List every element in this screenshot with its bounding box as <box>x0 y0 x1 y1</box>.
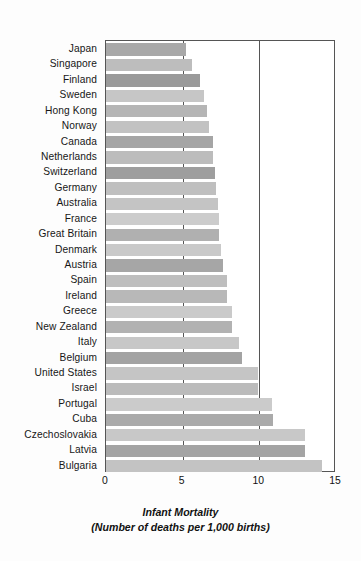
bar <box>106 182 216 194</box>
category-label: Bulgaria <box>59 457 97 474</box>
bar <box>106 229 219 241</box>
category-label-column: JapanSingaporeFinlandSwedenHong KongNorw… <box>0 40 101 472</box>
bar <box>106 460 322 472</box>
bar <box>106 59 192 71</box>
bar <box>106 105 207 117</box>
x-tick-label: 10 <box>253 475 265 486</box>
bar <box>106 337 239 349</box>
axis-caption: Infant Mortality (Number of deaths per 1… <box>0 505 361 534</box>
bar <box>106 259 223 271</box>
bar <box>106 429 305 441</box>
x-tick-label: 5 <box>179 475 185 486</box>
bar <box>106 244 221 256</box>
bar <box>106 445 305 457</box>
bar <box>106 352 242 364</box>
infant-mortality-bar-chart: JapanSingaporeFinlandSwedenHong KongNorw… <box>0 0 361 561</box>
axis-caption-title: Infant Mortality <box>0 505 361 520</box>
bar <box>106 383 258 395</box>
plot-area <box>105 40 335 472</box>
x-tick-label: 0 <box>102 475 108 486</box>
bar <box>106 43 186 55</box>
bar <box>106 74 200 86</box>
bar <box>106 151 213 163</box>
bar <box>106 167 215 179</box>
bar <box>106 90 204 102</box>
bar <box>106 290 227 302</box>
x-tick-label: 15 <box>329 475 341 486</box>
bar <box>106 121 209 133</box>
bar <box>106 198 218 210</box>
x-axis-ticks: 051015 <box>105 472 335 494</box>
bar <box>106 136 213 148</box>
bar <box>106 398 272 410</box>
bar <box>106 213 219 225</box>
bar <box>106 306 232 318</box>
bar <box>106 414 273 426</box>
bar <box>106 275 227 287</box>
bar <box>106 321 232 333</box>
bar <box>106 367 258 379</box>
axis-caption-subtitle: (Number of deaths per 1,000 births) <box>0 520 361 535</box>
